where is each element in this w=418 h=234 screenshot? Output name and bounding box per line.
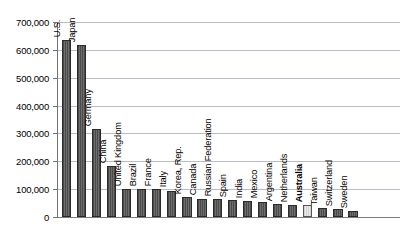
bar-category-label: Russian Federation: [204, 118, 213, 196]
bar-category-label: Canada: [189, 164, 198, 196]
axis-tick: [53, 161, 58, 162]
bar-category-label: Germany: [83, 89, 92, 126]
plot-area: U.S.JapanGermanyChinaUnited KingdomBrazi…: [57, 22, 400, 217]
axis-tick: [53, 22, 58, 23]
bar-category-label: China: [98, 139, 107, 163]
axis-tick-label: 400,000: [0, 100, 49, 111]
axis-tick-label: 600,000: [0, 44, 49, 55]
bar-category-label: Korea, Rep.: [174, 146, 183, 194]
bar-category-label: Netherlands: [280, 154, 289, 202]
bar: [288, 205, 297, 217]
bar: [303, 205, 312, 217]
bar-chart: U.S.JapanGermanyChinaUnited KingdomBrazi…: [0, 0, 418, 234]
axis-tick-label: 300,000: [0, 128, 49, 139]
bar: [213, 199, 222, 217]
axis-tick-label: 100,000: [0, 184, 49, 195]
axis-tick: [53, 217, 58, 218]
bar-category-label: Australia: [295, 164, 304, 202]
bar: [182, 197, 191, 217]
axis-tick-label: 0: [0, 212, 49, 223]
gridline: [57, 217, 400, 218]
bar: [122, 189, 131, 217]
bar-series: U.S.JapanGermanyChinaUnited KingdomBrazi…: [57, 22, 400, 217]
axis-tick-label: 200,000: [0, 156, 49, 167]
clipped-header-artifact: [0, 0, 418, 4]
bar: [62, 40, 71, 217]
bar-category-label: United Kingdom: [113, 122, 122, 186]
bar: [243, 201, 252, 217]
axis-tick: [53, 133, 58, 134]
bar-category-label: Mexico: [249, 170, 258, 199]
axis-tick-label: 500,000: [0, 72, 49, 83]
bar-category-label: France: [144, 158, 153, 186]
bar: [167, 191, 176, 217]
bar: [273, 204, 282, 217]
bar-category-label: India: [234, 179, 243, 198]
bar-category-label: Switzerland: [325, 160, 334, 206]
bar-category-label: Brazil: [129, 164, 138, 186]
bar-category-label: Sweden: [340, 175, 349, 208]
bar: [333, 209, 342, 217]
bar-category-label: Japan: [68, 18, 77, 43]
bar-category-label: Italy: [159, 171, 168, 187]
axis-tick: [53, 106, 58, 107]
bar-category-label: Taiwan: [310, 177, 319, 205]
bar-category-label: Spain: [219, 174, 228, 197]
bar: [77, 45, 86, 217]
bar: [258, 202, 267, 217]
axis-tick: [53, 50, 58, 51]
bar: [228, 200, 237, 217]
axis-tick: [53, 78, 58, 79]
bar: [348, 211, 357, 217]
bar: [152, 189, 161, 217]
axis-tick-label: 700,000: [0, 17, 49, 28]
bar: [197, 199, 206, 217]
bar: [318, 208, 327, 217]
bar-category-label: Argentina: [264, 163, 273, 201]
axis-tick: [53, 189, 58, 190]
bar: [137, 189, 146, 217]
